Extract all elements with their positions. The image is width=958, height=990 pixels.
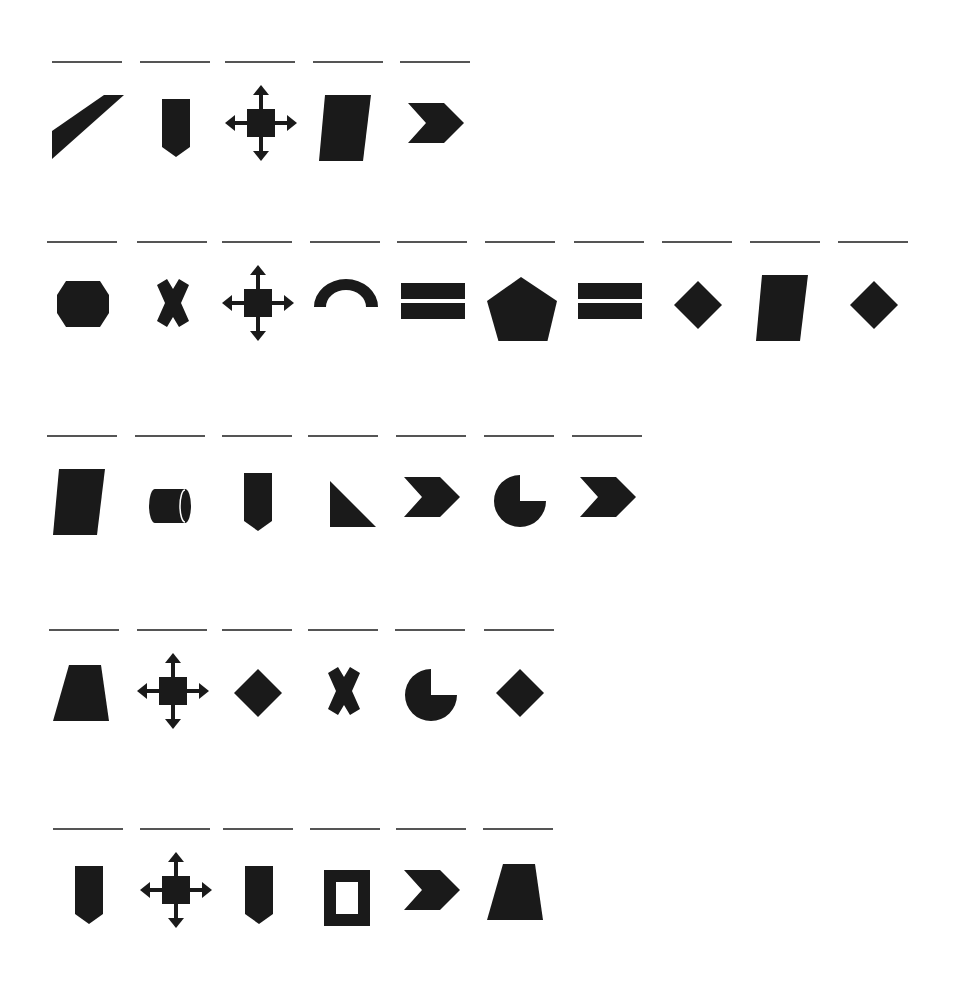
answer-line[interactable] — [53, 828, 123, 830]
answer-line[interactable] — [223, 828, 293, 830]
pentagon-banner-icon — [140, 81, 212, 161]
chevron-icon — [396, 848, 468, 928]
cross-x-icon — [137, 261, 209, 341]
answer-line[interactable] — [222, 629, 292, 631]
answer-line[interactable] — [137, 629, 207, 631]
answer-line[interactable] — [396, 435, 466, 437]
parallelogram-tall-icon — [47, 455, 119, 535]
answer-line[interactable] — [222, 241, 292, 243]
chevron-icon — [572, 455, 644, 535]
answer-line[interactable] — [140, 61, 210, 63]
answer-line[interactable] — [313, 61, 383, 63]
pentagon-banner-icon — [53, 848, 125, 928]
parallelogram-tall-icon — [313, 81, 385, 161]
answer-line[interactable] — [308, 435, 378, 437]
answer-line[interactable] — [750, 241, 820, 243]
answer-line[interactable] — [225, 61, 295, 63]
answer-line[interactable] — [485, 241, 555, 243]
answer-line[interactable] — [397, 241, 467, 243]
move-arrows-icon — [225, 81, 297, 161]
diamond-icon — [662, 261, 734, 341]
diamond-icon — [222, 649, 294, 729]
answer-line[interactable] — [47, 435, 117, 437]
square-frame-icon — [310, 848, 382, 928]
answer-line[interactable] — [838, 241, 908, 243]
answer-line[interactable] — [310, 828, 380, 830]
answer-line[interactable] — [396, 828, 466, 830]
answer-line[interactable] — [574, 241, 644, 243]
chevron-icon — [400, 81, 472, 161]
move-arrows-icon — [140, 848, 212, 928]
pentagon-banner-icon — [222, 455, 294, 535]
answer-line[interactable] — [400, 61, 470, 63]
answer-line[interactable] — [47, 241, 117, 243]
answer-line[interactable] — [140, 828, 210, 830]
pentagon-icon — [485, 261, 557, 341]
equals-icon — [574, 261, 646, 341]
answer-line[interactable] — [662, 241, 732, 243]
answer-line[interactable] — [49, 629, 119, 631]
arch-icon — [310, 261, 382, 341]
answer-line[interactable] — [308, 629, 378, 631]
parallelogram-tall-icon — [750, 261, 822, 341]
equals-icon — [397, 261, 469, 341]
diamond-icon — [484, 649, 556, 729]
cross-x-icon — [308, 649, 380, 729]
pie-three-quarter-icon — [395, 649, 467, 729]
move-arrows-icon — [137, 649, 209, 729]
cylinder-icon — [135, 455, 207, 535]
trapezoid-icon — [49, 649, 121, 729]
answer-line[interactable] — [135, 435, 205, 437]
answer-line[interactable] — [483, 828, 553, 830]
answer-line[interactable] — [484, 435, 554, 437]
octagon-icon — [47, 261, 119, 341]
chevron-icon — [396, 455, 468, 535]
parallelogram-slash-icon — [52, 81, 124, 161]
diamond-icon — [838, 261, 910, 341]
pie-three-quarter-icon — [484, 455, 556, 535]
answer-line[interactable] — [310, 241, 380, 243]
answer-line[interactable] — [52, 61, 122, 63]
answer-line[interactable] — [572, 435, 642, 437]
move-arrows-icon — [222, 261, 294, 341]
pentagon-banner-icon — [223, 848, 295, 928]
answer-line[interactable] — [484, 629, 554, 631]
trapezoid-icon — [483, 848, 555, 928]
answer-line[interactable] — [137, 241, 207, 243]
right-triangle-icon — [308, 455, 380, 535]
answer-line[interactable] — [395, 629, 465, 631]
answer-line[interactable] — [222, 435, 292, 437]
